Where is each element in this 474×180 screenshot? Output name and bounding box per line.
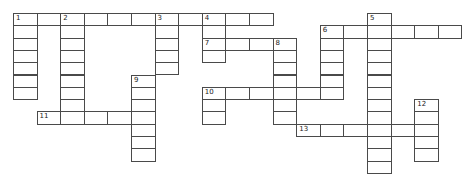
crossword-cell[interactable] xyxy=(367,25,392,38)
crossword-cell[interactable] xyxy=(273,50,298,63)
crossword-cell[interactable] xyxy=(414,124,439,137)
crossword-cell[interactable] xyxy=(60,75,85,88)
clue-number: 3 xyxy=(158,14,162,22)
clue-number: 11 xyxy=(40,112,49,120)
crossword-cell[interactable] xyxy=(60,38,85,51)
crossword-cell[interactable] xyxy=(367,75,392,88)
crossword-cell[interactable] xyxy=(202,25,227,38)
crossword-cell[interactable] xyxy=(60,62,85,75)
crossword-cell[interactable] xyxy=(131,87,156,100)
clue-number: 7 xyxy=(205,39,209,47)
crossword-cell[interactable] xyxy=(249,87,274,100)
clue-number: 4 xyxy=(205,14,209,22)
crossword-cell[interactable] xyxy=(343,25,368,38)
crossword-cell[interactable]: 6 xyxy=(320,25,345,38)
crossword-cell[interactable] xyxy=(225,13,250,26)
crossword-cell[interactable] xyxy=(13,75,38,88)
clue-number: 2 xyxy=(63,14,67,22)
crossword-cell[interactable] xyxy=(60,50,85,63)
crossword-cell[interactable] xyxy=(414,136,439,149)
crossword-cell[interactable] xyxy=(367,50,392,63)
crossword-cell[interactable]: 4 xyxy=(202,13,227,26)
crossword-cell[interactable] xyxy=(249,13,274,26)
crossword-cell[interactable]: 8 xyxy=(273,38,298,51)
crossword-cell[interactable] xyxy=(155,50,180,63)
crossword-cell[interactable] xyxy=(367,62,392,75)
crossword-grid: 12347568910111213 xyxy=(0,0,474,180)
crossword-cell[interactable] xyxy=(414,111,439,124)
crossword-cell[interactable]: 3 xyxy=(155,13,180,26)
crossword-cell[interactable] xyxy=(391,124,416,137)
clue-number: 13 xyxy=(299,125,308,133)
crossword-cell[interactable] xyxy=(155,25,180,38)
crossword-cell[interactable] xyxy=(391,25,416,38)
crossword-cell[interactable] xyxy=(155,38,180,51)
crossword-cell[interactable] xyxy=(13,87,38,100)
crossword-cell[interactable]: 12 xyxy=(414,99,439,112)
crossword-cell[interactable] xyxy=(13,25,38,38)
crossword-cell[interactable] xyxy=(107,111,132,124)
crossword-cell[interactable] xyxy=(414,148,439,161)
crossword-cell[interactable] xyxy=(107,13,132,26)
crossword-cell[interactable] xyxy=(320,62,345,75)
crossword-cell[interactable] xyxy=(60,111,85,124)
crossword-cell[interactable] xyxy=(320,75,345,88)
crossword-cell[interactable] xyxy=(13,38,38,51)
crossword-cell[interactable] xyxy=(202,99,227,112)
clue-number: 9 xyxy=(134,76,138,84)
crossword-cell[interactable] xyxy=(320,87,345,100)
crossword-cell[interactable]: 13 xyxy=(296,124,321,137)
crossword-cell[interactable] xyxy=(367,111,392,124)
crossword-cell[interactable] xyxy=(225,87,250,100)
crossword-cell[interactable] xyxy=(296,87,321,100)
crossword-cell[interactable] xyxy=(367,38,392,51)
crossword-cell[interactable] xyxy=(343,124,368,137)
crossword-cell[interactable] xyxy=(13,50,38,63)
crossword-cell[interactable] xyxy=(320,124,345,137)
crossword-cell[interactable] xyxy=(202,111,227,124)
crossword-cell[interactable] xyxy=(131,136,156,149)
crossword-cell[interactable]: 10 xyxy=(202,87,227,100)
clue-number: 12 xyxy=(417,100,426,108)
crossword-cell[interactable] xyxy=(131,111,156,124)
crossword-cell[interactable] xyxy=(131,148,156,161)
clue-number: 6 xyxy=(323,26,327,34)
crossword-cell[interactable]: 2 xyxy=(60,13,85,26)
crossword-cell[interactable]: 7 xyxy=(202,38,227,51)
crossword-cell[interactable] xyxy=(367,99,392,112)
crossword-cell[interactable] xyxy=(84,111,109,124)
crossword-cell[interactable] xyxy=(273,111,298,124)
crossword-cell[interactable] xyxy=(202,50,227,63)
crossword-cell[interactable] xyxy=(178,13,203,26)
crossword-cell[interactable] xyxy=(13,62,38,75)
crossword-cell[interactable] xyxy=(60,99,85,112)
crossword-cell[interactable] xyxy=(367,136,392,149)
crossword-cell[interactable] xyxy=(320,50,345,63)
crossword-cell[interactable] xyxy=(367,161,392,174)
crossword-cell[interactable] xyxy=(414,25,439,38)
crossword-cell[interactable] xyxy=(273,62,298,75)
crossword-cell[interactable] xyxy=(438,25,463,38)
crossword-cell[interactable] xyxy=(273,87,298,100)
crossword-cell[interactable] xyxy=(320,38,345,51)
crossword-cell[interactable]: 11 xyxy=(37,111,62,124)
crossword-cell[interactable] xyxy=(273,99,298,112)
crossword-cell[interactable] xyxy=(37,13,62,26)
crossword-cell[interactable] xyxy=(249,38,274,51)
crossword-cell[interactable] xyxy=(84,13,109,26)
crossword-cell[interactable] xyxy=(131,124,156,137)
crossword-cell[interactable] xyxy=(273,75,298,88)
crossword-cell[interactable]: 1 xyxy=(13,13,38,26)
crossword-cell[interactable] xyxy=(367,87,392,100)
crossword-cell[interactable] xyxy=(60,25,85,38)
crossword-cell[interactable] xyxy=(131,13,156,26)
crossword-cell[interactable] xyxy=(155,62,180,75)
crossword-cell[interactable]: 9 xyxy=(131,75,156,88)
crossword-cell[interactable] xyxy=(131,99,156,112)
crossword-cell[interactable] xyxy=(60,87,85,100)
crossword-cell[interactable]: 5 xyxy=(367,13,392,26)
crossword-cell[interactable] xyxy=(367,148,392,161)
crossword-cell[interactable] xyxy=(367,124,392,137)
crossword-cell[interactable] xyxy=(225,38,250,51)
clue-number: 8 xyxy=(276,39,280,47)
